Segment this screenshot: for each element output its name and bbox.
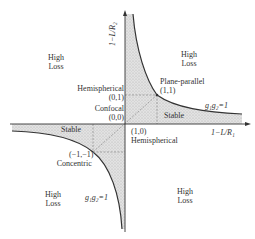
region-label-stable-q3: Stable bbox=[61, 125, 81, 134]
label-concentric: (−1,−1) Concentric bbox=[55, 150, 93, 168]
curve-label-upper: g₁g₂=1 bbox=[205, 101, 228, 110]
x-axis-label: 1−L/R₁ bbox=[211, 128, 235, 137]
curve-label-lower: g₁g₂=1 bbox=[85, 193, 108, 202]
label-plane-parallel: Plane-parallel (1,1) bbox=[160, 77, 204, 95]
point-plane-parallel bbox=[156, 94, 159, 97]
label-hemispherical-top: Hemispherical (0,1) bbox=[70, 84, 124, 102]
region-label-high-loss-top-left: High Loss bbox=[43, 53, 69, 71]
label-hemispherical-right: (1,0) Hemispherical bbox=[131, 127, 178, 145]
region-label-high-loss-bottom-right: High Loss bbox=[172, 187, 198, 205]
region-label-stable-q1: Stable bbox=[164, 111, 184, 120]
y-axis-label: 1−L/R₂ bbox=[108, 6, 117, 46]
y-axis-arrow-icon bbox=[123, 10, 127, 16]
region-label-high-loss-top-right: High Loss bbox=[176, 50, 202, 68]
region-label-high-loss-bottom-left: High Loss bbox=[40, 190, 66, 208]
diagram-graphics bbox=[0, 0, 255, 239]
x-axis-arrow-icon bbox=[245, 122, 251, 126]
stability-diagram: 1−L/R₂ 1−L/R₁ High Loss High Loss High L… bbox=[0, 0, 255, 239]
label-confocal: Confocal (0,0) bbox=[80, 104, 124, 122]
